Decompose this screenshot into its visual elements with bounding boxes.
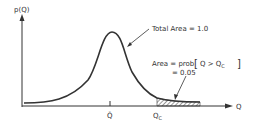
tail-area-label-line1: Area = prob xyxy=(152,60,195,68)
tail-area-leader xyxy=(176,76,186,97)
y-axis-arrow-icon xyxy=(20,14,25,21)
bracket-open: [ xyxy=(194,58,198,69)
tail-area-bracket-content: Q > QC xyxy=(200,60,225,69)
mean-label: Q̄ xyxy=(107,111,113,120)
total-area-leader xyxy=(129,29,149,45)
critical-value-label: QC xyxy=(153,112,163,121)
y-axis xyxy=(20,14,25,107)
x-axis-label: Q xyxy=(236,103,242,111)
total-area-label: Total Area = 1.0 xyxy=(151,25,208,33)
x-axis-arrow-icon xyxy=(225,104,233,109)
tail-area-arrow-icon xyxy=(174,94,178,100)
x-axis xyxy=(22,104,233,109)
tail-area-label-line2: = 0.05 xyxy=(172,69,196,77)
bracket-close: ] xyxy=(237,58,241,69)
pdf-diagram: p(Q) Q Q̄ QC Total Area = 1.0 Area = pro… xyxy=(0,0,254,136)
y-axis-label: p(Q) xyxy=(14,6,30,14)
